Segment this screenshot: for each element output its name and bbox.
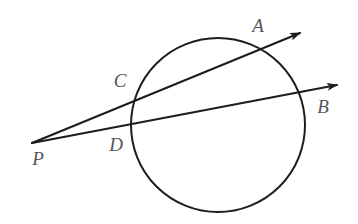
secant-ray-p-d-b bbox=[32, 85, 337, 143]
point-label-b: B bbox=[317, 96, 329, 117]
circle bbox=[131, 38, 305, 212]
geometry-canvas: A B C D P bbox=[0, 0, 358, 224]
point-label-c: C bbox=[114, 70, 127, 91]
geometry-figure: A B C D P bbox=[0, 0, 358, 224]
point-label-d: D bbox=[108, 134, 123, 155]
secant-ray-p-c-a bbox=[32, 33, 300, 143]
point-label-p: P bbox=[31, 148, 44, 169]
point-label-a: A bbox=[250, 15, 264, 36]
